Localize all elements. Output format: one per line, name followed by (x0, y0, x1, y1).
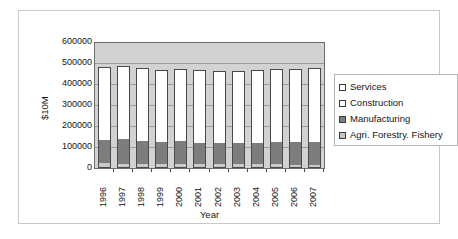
bar-segment-agri-forestry-fishery[interactable] (155, 164, 168, 168)
bar-segment-services[interactable] (270, 69, 283, 136)
x-axis-tickmark (266, 169, 267, 172)
x-axis-tickmark (209, 169, 210, 172)
legend-item-manufacturing[interactable]: Manufacturing (339, 111, 454, 127)
x-axis-title: Year (94, 209, 325, 220)
bar-2007[interactable] (308, 68, 321, 168)
bar-segment-construction[interactable] (174, 134, 187, 141)
y-axis-tick-label: 400000 (62, 79, 92, 88)
x-axis-tickmark (323, 169, 324, 172)
bar-segment-construction[interactable] (155, 134, 168, 141)
bar-segment-agri-forestry-fishery[interactable] (193, 164, 206, 168)
bar-1996[interactable] (98, 67, 111, 168)
x-axis-tick-label: 1996 (98, 173, 109, 207)
bar-segment-manufacturing[interactable] (98, 140, 111, 164)
x-axis-tickmark (228, 169, 229, 172)
y-axis-title: $10M (38, 85, 51, 131)
x-axis-tick-label: 2003 (232, 173, 243, 207)
legend-label-manufacturing: Manufacturing (350, 114, 410, 124)
bar-2006[interactable] (289, 69, 302, 168)
x-axis-tick-label: 2000 (174, 173, 185, 207)
legend-label-agriculture: Agri. Forestry. Fishery (350, 130, 443, 140)
bar-segment-agri-forestry-fishery[interactable] (251, 164, 264, 168)
x-axis-tick-label: 2001 (193, 173, 204, 207)
bar-1998[interactable] (136, 68, 149, 168)
bar-2000[interactable] (174, 69, 187, 168)
bar-segment-agri-forestry-fishery[interactable] (289, 165, 302, 168)
bar-segment-manufacturing[interactable] (136, 141, 149, 164)
bar-segment-manufacturing[interactable] (232, 143, 245, 165)
x-axis-tick-label: 2006 (289, 173, 300, 207)
bar-segment-agri-forestry-fishery[interactable] (174, 164, 187, 168)
y-axis-tick-label: 100000 (62, 142, 92, 151)
bar-segment-manufacturing[interactable] (289, 142, 302, 165)
x-axis-tickmark (247, 169, 248, 172)
x-axis-tick-label: 2004 (251, 173, 262, 207)
y-axis-tick-label: 300000 (62, 100, 92, 109)
legend-item-services[interactable]: Services (339, 79, 454, 95)
bar-segment-services[interactable] (289, 69, 302, 137)
bar-segment-services[interactable] (98, 67, 111, 132)
bar-2005[interactable] (270, 69, 283, 168)
legend-swatch-manufacturing-icon (339, 116, 346, 123)
x-axis-tickmark (113, 169, 114, 172)
bar-segment-agri-forestry-fishery[interactable] (270, 164, 283, 168)
bar-segment-manufacturing[interactable] (174, 141, 187, 164)
bar-segment-agri-forestry-fishery[interactable] (308, 165, 321, 168)
x-axis-tick-label: 2007 (308, 173, 319, 207)
bar-segment-agri-forestry-fishery[interactable] (136, 164, 149, 168)
bar-segment-construction[interactable] (117, 131, 130, 139)
x-axis-tickmark (304, 169, 305, 172)
bar-segment-manufacturing[interactable] (251, 143, 264, 165)
bar-segment-services[interactable] (136, 68, 149, 133)
bar-segment-agri-forestry-fishery[interactable] (117, 164, 130, 168)
bar-segment-services[interactable] (117, 66, 130, 132)
bar-segment-manufacturing[interactable] (213, 143, 226, 164)
y-axis-tick-label: 600000 (62, 37, 92, 46)
chart-legend: Services Construction Manufacturing Agri… (334, 74, 458, 146)
x-axis-tickmark (189, 169, 190, 172)
bar-1999[interactable] (155, 70, 168, 168)
legend-swatch-services-icon (339, 84, 346, 91)
x-axis-tickmark (285, 169, 286, 172)
bar-segment-services[interactable] (308, 68, 321, 137)
x-axis-tick-label: 1997 (117, 173, 128, 207)
bar-2002[interactable] (213, 71, 226, 168)
bar-segment-services[interactable] (213, 71, 226, 137)
legend-swatch-construction-icon (339, 100, 346, 107)
bar-1997[interactable] (117, 66, 130, 168)
x-axis-tickmark (132, 169, 133, 172)
bar-2001[interactable] (193, 70, 206, 168)
bar-segment-services[interactable] (232, 71, 245, 138)
bar-2003[interactable] (232, 71, 245, 168)
bar-segment-services[interactable] (155, 70, 168, 135)
bar-segment-agri-forestry-fishery[interactable] (232, 164, 245, 168)
bar-segment-services[interactable] (251, 70, 264, 137)
y-axis: 600000 500000 400000 300000 200000 10000… (55, 35, 92, 176)
bar-segment-agri-forestry-fishery[interactable] (98, 163, 111, 168)
x-axis-tickmark (151, 169, 152, 172)
x-axis-tick-label: 2005 (270, 173, 281, 207)
x-axis-tick-label: 1998 (136, 173, 147, 207)
x-axis-tickmark (170, 169, 171, 172)
y-axis-tick-label: 200000 (62, 121, 92, 130)
bar-segment-manufacturing[interactable] (270, 142, 283, 165)
bar-segment-manufacturing[interactable] (155, 142, 168, 164)
x-axis: 1996199719981999200020012002200320042005… (94, 173, 325, 208)
bar-segment-manufacturing[interactable] (308, 142, 321, 164)
bar-segment-agri-forestry-fishery[interactable] (213, 164, 226, 168)
chart-frame: $10M 600000 500000 400000 300000 200000 … (18, 10, 440, 224)
bar-2004[interactable] (251, 70, 264, 168)
bar-segment-construction[interactable] (136, 133, 149, 141)
y-axis-tick-label: 500000 (62, 58, 92, 67)
legend-item-agriculture[interactable]: Agri. Forestry. Fishery (339, 127, 454, 143)
bar-segment-construction[interactable] (98, 132, 111, 140)
legend-label-services: Services (350, 82, 386, 92)
legend-label-construction: Construction (350, 98, 403, 108)
bar-segment-manufacturing[interactable] (117, 139, 130, 163)
legend-item-construction[interactable]: Construction (339, 95, 454, 111)
bar-segment-services[interactable] (174, 69, 187, 135)
x-axis-tick-label: 1999 (155, 173, 166, 207)
x-axis-tick-label: 2002 (213, 173, 224, 207)
bar-segment-services[interactable] (193, 70, 206, 136)
bar-segment-manufacturing[interactable] (193, 143, 206, 164)
